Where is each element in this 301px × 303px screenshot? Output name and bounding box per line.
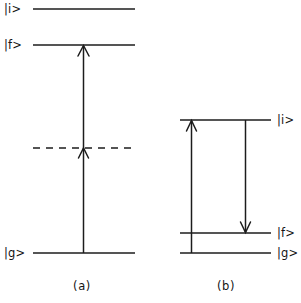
panel-b-label-g: |g> xyxy=(277,246,298,260)
energy-level-figure: |i> |f> |g> (a) |i> xyxy=(0,0,301,303)
panel-a-transition-arrow-two-photon xyxy=(78,46,89,254)
panel-b: |i> |f> |g> (b) xyxy=(180,113,298,293)
panel-a-caption: (a) xyxy=(73,279,91,293)
panel-b-label-f: |f> xyxy=(277,226,295,240)
panel-a-label-g: |g> xyxy=(4,246,25,260)
energy-level-diagram-svg: |i> |f> |g> (a) |i> xyxy=(0,0,301,303)
panel-a-label-i: |i> xyxy=(4,2,21,16)
panel-a-label-f: |f> xyxy=(4,38,22,52)
panel-b-transition-arrow-emission xyxy=(241,120,251,233)
panel-b-caption: (b) xyxy=(217,279,235,293)
panel-a: |i> |f> |g> (a) xyxy=(4,2,135,293)
panel-b-label-i: |i> xyxy=(277,113,294,127)
